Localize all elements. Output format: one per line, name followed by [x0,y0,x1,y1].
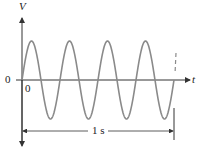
dashed-continuation [175,53,176,74]
v-axis-label: V [19,1,26,12]
origin-below-label: 0 [25,83,31,94]
duration-label: 1 s [92,125,105,136]
origin-left-label: 0 [5,74,11,85]
t-axis-label: t [192,74,195,85]
